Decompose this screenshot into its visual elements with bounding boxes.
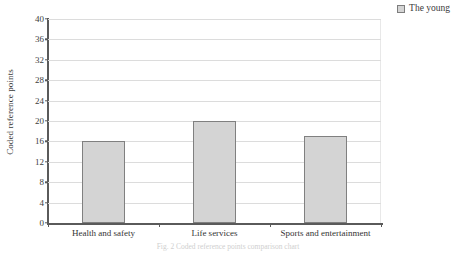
y-axis-title-text: Coded reference points xyxy=(5,69,15,155)
y-axis-tick-label: 20 xyxy=(35,117,44,126)
y-axis-tick-label: 24 xyxy=(35,96,44,105)
y-axis-tick-label: 8 xyxy=(40,178,45,187)
gridline xyxy=(48,101,381,102)
x-axis-tick-mark xyxy=(48,223,49,227)
gridline xyxy=(48,60,381,61)
y-axis-tick-label: 32 xyxy=(35,55,44,64)
legend-swatch-the-young xyxy=(397,5,405,13)
legend-label-the-young: The young xyxy=(409,4,450,14)
y-axis-tick-mark xyxy=(45,59,48,60)
y-axis-tick-mark xyxy=(45,120,48,121)
x-axis-line xyxy=(47,223,383,225)
gridline xyxy=(48,39,381,40)
y-axis-tick-label: 0 xyxy=(40,219,45,228)
y-axis-tick-mark xyxy=(45,100,48,101)
figure-caption: Fig. 2 Coded reference points comparison… xyxy=(0,243,456,251)
y-axis-tick-label: 40 xyxy=(35,15,44,24)
y-axis-tick-label: 16 xyxy=(35,137,44,146)
y-axis-title: Coded reference points xyxy=(2,0,18,223)
y-axis-tick-label: 12 xyxy=(35,157,44,166)
x-axis-category-label: Health and safety xyxy=(72,229,135,238)
y-axis-tick-label: 36 xyxy=(35,35,44,44)
gridline xyxy=(48,19,381,20)
x-axis-tick-mark xyxy=(270,223,271,227)
y-axis-tick-mark xyxy=(45,141,48,142)
y-axis-tick-mark xyxy=(45,161,48,162)
chart-legend: The young xyxy=(397,4,450,14)
gridline xyxy=(48,80,381,81)
x-axis-tick-mark xyxy=(381,223,382,227)
bar xyxy=(82,141,125,223)
x-axis-category-label: Sports and entertainment xyxy=(281,229,371,238)
x-axis-tick-mark xyxy=(159,223,160,227)
bar xyxy=(304,136,347,223)
figure-bar-chart: The young Coded reference points 0481216… xyxy=(0,0,456,253)
y-axis-tick-mark xyxy=(45,18,48,19)
y-axis-tick-label: 4 xyxy=(40,198,45,207)
plot-area: 0481216202428323640 Health and safetyLif… xyxy=(48,19,381,223)
y-axis-tick-label: 28 xyxy=(35,76,44,85)
y-axis-tick-mark xyxy=(45,39,48,40)
y-axis-tick-mark xyxy=(45,79,48,80)
bar xyxy=(193,121,236,223)
y-axis-tick-mark xyxy=(45,181,48,182)
y-axis-tick-mark xyxy=(45,202,48,203)
x-axis-category-label: Life services xyxy=(191,229,237,238)
